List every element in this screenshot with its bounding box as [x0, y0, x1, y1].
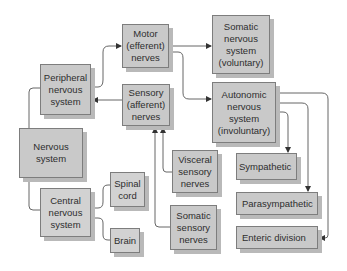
spinal-cord-box: Spinal cord [110, 172, 145, 207]
enteric-division-label: Enteric division [242, 232, 306, 244]
motor-nerves-box: Motor (efferent) nerves [122, 24, 169, 68]
central-nervous-system-label: Central nervous system [49, 195, 83, 231]
somatic-nervous-system-label: Somatic nervous system (voluntary) [219, 21, 264, 69]
peripheral-nervous-system-box: Peripheral nervous system [40, 64, 91, 115]
nervous-system-diagram: Nervous system Peripheral nervous system… [0, 0, 347, 271]
sympathetic-box: Sympathetic [236, 153, 297, 180]
somatic-nervous-system-box: Somatic nervous system (voluntary) [212, 15, 270, 74]
enteric-division-box: Enteric division [236, 226, 318, 249]
autonomic-nervous-system-label: Autonomic nervous system (involuntary) [218, 89, 270, 137]
brain-box: Brain [110, 228, 140, 253]
visceral-sensory-nerves-box: Visceral sensory nerves [172, 150, 218, 193]
parasympathetic-box: Parasympathetic [236, 192, 318, 215]
spinal-cord-label: Spinal cord [114, 178, 140, 202]
sensory-nerves-label: Sensory (afferent) nerves [127, 87, 165, 123]
sensory-nerves-box: Sensory (afferent) nerves [122, 84, 170, 126]
brain-label: Brain [114, 235, 136, 247]
nervous-system-label: Nervous system [33, 141, 68, 165]
nervous-system-box: Nervous system [19, 128, 83, 178]
sympathetic-label: Sympathetic [239, 161, 291, 173]
visceral-sensory-nerves-label: Visceral sensory nerves [178, 154, 212, 190]
parasympathetic-label: Parasympathetic [242, 198, 313, 210]
motor-nerves-label: Motor (efferent) nerves [126, 28, 164, 64]
central-nervous-system-box: Central nervous system [40, 188, 91, 237]
autonomic-nervous-system-box: Autonomic nervous system (involuntary) [212, 82, 276, 143]
peripheral-nervous-system-label: Peripheral nervous system [44, 72, 87, 108]
somatic-sensory-nerves-box: Somatic sensory nerves [170, 205, 217, 250]
somatic-sensory-nerves-label: Somatic sensory nerves [176, 210, 210, 246]
